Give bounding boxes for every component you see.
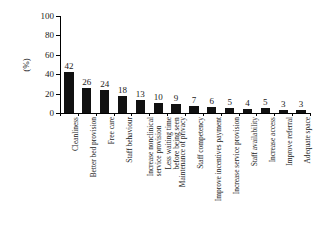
x-axis-category-label: Maintenance of privacy [179,117,187,187]
x-axis-tick [239,113,240,116]
x-axis-tick [167,113,168,116]
bar [207,107,216,113]
bar-value-label: 18 [118,86,127,95]
x-axis-tick [96,113,97,116]
x-axis-category-label: Improve referral [286,117,294,166]
y-axis-tick-label: 100 [41,11,55,21]
x-axis-tick [131,113,132,116]
y-axis-tick [56,74,60,75]
x-axis-tick [221,113,222,116]
x-axis-tick [78,113,79,116]
x-axis-category-label: Increase access [269,117,277,162]
y-axis-tick [56,55,60,56]
x-axis-tick [149,113,150,116]
bar-value-label: 24 [100,80,109,89]
bar-value-label: 5 [227,98,232,107]
bar-value-label: 42 [64,62,73,71]
x-axis-category-label: Free care [108,117,116,144]
plot-area: 02040608010042262418131097654533 [60,16,310,113]
x-axis-tick [185,113,186,116]
bar [171,104,180,113]
y-axis-tick [56,35,60,36]
bar [64,72,73,113]
bar [118,96,127,113]
bar-value-label: 3 [281,100,286,109]
y-axis-title: (%) [21,45,31,85]
x-axis-category-label: Adequate space [304,117,312,164]
bar [225,108,234,113]
y-axis-tick-label: 20 [45,89,54,99]
y-axis-tick [56,16,60,17]
x-axis-category-label: Staff behaviour [126,117,134,163]
bar [296,110,305,113]
bar [261,108,270,113]
x-axis-category-label: Staff competency [197,117,205,169]
y-axis-tick-label: 0 [50,108,55,118]
bar-value-label: 9 [174,94,179,103]
x-axis-category-label: Cleanliness [72,117,80,151]
y-axis-tick [56,94,60,95]
bar [189,106,198,113]
bar-value-label: 4 [245,99,250,108]
x-axis-category-label: Increase service provision [233,117,241,194]
y-axis-tick-label: 80 [45,30,54,40]
x-axis-tick [310,113,311,116]
bar [136,100,145,113]
x-axis-tick [114,113,115,116]
bar-value-label: 6 [210,97,215,106]
bar-chart: (%) 02040608010042262418131097654533 Cle… [0,0,320,252]
x-axis-tick [292,113,293,116]
x-axis-category-label: Better bed provision [90,117,98,177]
bar [100,90,109,113]
x-axis-tick [203,113,204,116]
bar-value-label: 5 [263,98,268,107]
x-axis-category-label: Staff availability [251,117,259,166]
x-axis-category-label: Increase nonclinicalservice provision [147,117,162,176]
bar-value-label: 7 [192,96,197,105]
bar-value-label: 10 [154,93,163,102]
x-axis-category-label: Improve incentives payment [215,117,223,201]
bar-value-label: 3 [299,100,304,109]
y-axis-tick-label: 60 [45,50,54,60]
bar [82,88,91,113]
bar [279,110,288,113]
bar [154,103,163,113]
y-axis-tick-label: 40 [45,69,54,79]
x-axis-tick [274,113,275,116]
bar [243,109,252,113]
x-axis-tick [256,113,257,116]
bar-value-label: 13 [136,90,145,99]
bar-value-label: 26 [82,78,91,87]
x-axis-tick [60,113,61,116]
